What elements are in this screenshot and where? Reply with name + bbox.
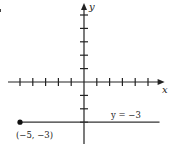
series — [17, 120, 159, 125]
x-axis-label: x — [162, 84, 168, 95]
y-axis-label: y — [88, 1, 95, 12]
point-label: (−5, −3) — [16, 130, 53, 140]
endpoint-dot — [17, 120, 22, 125]
stray-mark — [0, 9, 1, 12]
y-axis-arrow — [81, 3, 87, 10]
coordinate-plane: x y y = −3 (−5, −3) — [0, 0, 179, 146]
line-label: y = −3 — [110, 110, 141, 120]
